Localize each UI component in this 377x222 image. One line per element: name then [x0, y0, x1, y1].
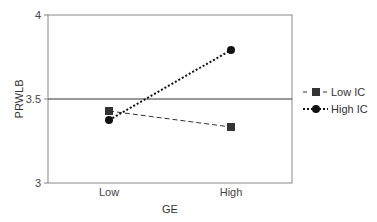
- interaction-chart: 4 3.5 3 Low High GE PRWLB Low IC High IC: [0, 0, 377, 222]
- y-axis-label: PRWLB: [13, 80, 25, 119]
- series-low-ic-line: [109, 111, 231, 127]
- x-tick-low: Low: [99, 186, 119, 198]
- x-tick-high: High: [220, 186, 243, 198]
- legend-circle-icon: [312, 105, 320, 113]
- y-tick-4: 4: [35, 9, 41, 21]
- high-ic-marker-high: [227, 46, 235, 54]
- series-high-ic-line: [109, 50, 231, 120]
- legend: Low IC High IC: [303, 86, 368, 115]
- low-ic-marker-low: [105, 107, 113, 115]
- y-tick-3-5: 3.5: [26, 93, 41, 105]
- low-ic-marker-high: [227, 123, 235, 131]
- x-axis-label: GE: [162, 203, 178, 215]
- high-ic-marker-low: [105, 116, 113, 124]
- legend-low-ic-label: Low IC: [331, 86, 365, 98]
- y-tick-3: 3: [35, 177, 41, 189]
- legend-high-ic-label: High IC: [331, 103, 368, 115]
- legend-square-icon: [312, 88, 320, 96]
